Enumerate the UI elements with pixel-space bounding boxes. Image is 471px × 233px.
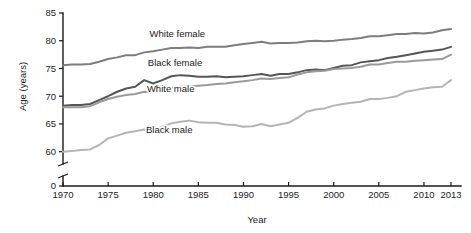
series-line-white-female — [63, 29, 451, 65]
series-label-black-female: Black female — [148, 57, 202, 68]
series-label-white-female: White female — [150, 28, 205, 39]
x-tick-label-1970: 1970 — [52, 189, 73, 200]
chart-svg: 6065707580850 19701975198019851990199520… — [0, 0, 471, 233]
y-axis-break-mark — [58, 162, 68, 178]
y-axis: 6065707580850 — [45, 7, 68, 191]
x-tick-label-2000: 2000 — [323, 189, 344, 200]
y-tick-label-85: 85 — [45, 7, 56, 18]
x-tick-label-1980: 1980 — [143, 189, 164, 200]
x-tick-label-1995: 1995 — [278, 189, 299, 200]
y-tick-label-70: 70 — [45, 91, 56, 102]
x-tick-label-1975: 1975 — [98, 189, 119, 200]
series-line-white-male — [63, 55, 451, 108]
y-tick-label-80: 80 — [45, 35, 56, 46]
x-tick-label-2010: 2010 — [413, 189, 434, 200]
x-tick-label-2005: 2005 — [368, 189, 389, 200]
series-lines — [63, 29, 451, 152]
x-axis-title: Year — [247, 214, 266, 225]
x-axis: 1970197519801985199019952000200520102013 — [52, 182, 461, 200]
x-tick-label-1985: 1985 — [188, 189, 209, 200]
life-expectancy-chart: 6065707580850 19701975198019851990199520… — [0, 0, 471, 233]
x-tick-label-2013: 2013 — [440, 189, 461, 200]
series-label-black-male: Black male — [146, 124, 192, 135]
y-tick-label-75: 75 — [45, 63, 56, 74]
y-axis-title: Age (years) — [17, 62, 28, 111]
y-tick-label-60: 60 — [45, 146, 56, 157]
series-label-white-male: White male — [147, 83, 195, 94]
x-tick-label-1990: 1990 — [233, 189, 254, 200]
y-tick-label-65: 65 — [45, 118, 56, 129]
